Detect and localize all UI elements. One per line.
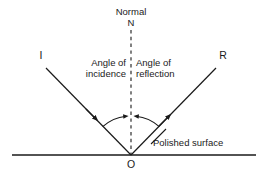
incident-ray-label: I — [34, 50, 48, 61]
normal-label: Normal — [101, 6, 161, 17]
angle-of-reflection-label: Angle of reflection — [136, 57, 202, 79]
angle-of-incidence-arc — [103, 116, 126, 127]
reflection-diagram: Normal N Angle of incidence Angle of ref… — [0, 0, 266, 178]
angle-of-incidence-label: Angle of incidence — [62, 57, 126, 79]
polished-surface-label: Polished surface — [153, 137, 243, 148]
normal-symbol-label: N — [101, 17, 161, 28]
incident-ray-arrow — [86, 109, 96, 119]
angle-of-reflection-arc — [136, 116, 159, 127]
reflected-ray-arrow — [159, 116, 169, 126]
origin-point-label: O — [120, 159, 142, 170]
reflected-ray-label: R — [216, 50, 230, 61]
